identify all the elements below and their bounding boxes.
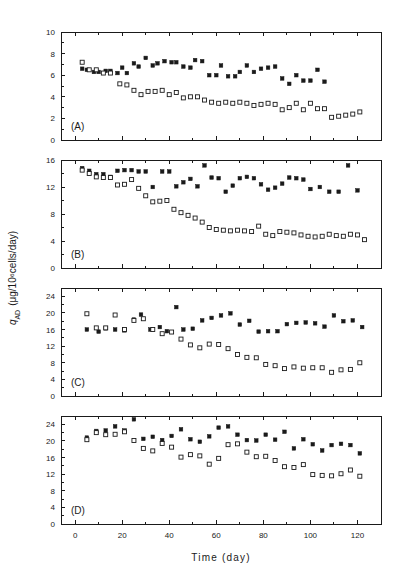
data-point xyxy=(273,186,277,190)
data-point xyxy=(132,88,136,92)
x-tick-label: 60 xyxy=(212,531,221,540)
data-point xyxy=(243,229,247,233)
data-point xyxy=(308,101,312,105)
data-point xyxy=(292,466,296,470)
data-point xyxy=(292,231,296,235)
data-point xyxy=(125,83,129,87)
x-tick-label: 80 xyxy=(259,531,268,540)
data-point xyxy=(294,73,298,77)
data-point xyxy=(137,65,141,69)
data-point xyxy=(142,437,146,441)
y-tick-label: 8 xyxy=(51,359,56,368)
data-point xyxy=(348,468,352,472)
data-point xyxy=(264,232,268,236)
data-point xyxy=(94,431,98,435)
y-tick-label: 16 xyxy=(46,454,55,463)
data-point xyxy=(198,346,202,350)
data-point xyxy=(235,228,239,232)
data-point xyxy=(285,322,289,326)
data-point xyxy=(287,176,291,180)
data-point xyxy=(363,238,367,242)
data-point xyxy=(188,95,192,99)
data-point xyxy=(217,426,221,430)
data-point xyxy=(85,328,89,332)
data-point xyxy=(235,442,239,446)
data-point xyxy=(358,361,362,365)
data-point xyxy=(360,325,364,329)
data-point xyxy=(214,73,218,77)
data-point xyxy=(113,425,117,429)
data-point xyxy=(313,235,317,239)
data-point xyxy=(189,177,193,181)
y-tick-label: 12 xyxy=(46,342,55,351)
data-point xyxy=(231,184,235,188)
data-point xyxy=(85,312,89,316)
figure-background xyxy=(0,0,399,580)
data-point xyxy=(118,82,122,86)
data-point xyxy=(323,107,327,111)
data-point xyxy=(101,71,105,75)
data-point xyxy=(186,213,190,217)
data-point xyxy=(132,439,136,443)
data-point xyxy=(348,367,352,371)
data-point xyxy=(226,74,230,78)
data-point xyxy=(141,446,145,450)
data-point xyxy=(283,367,287,371)
data-point xyxy=(302,79,306,83)
data-point xyxy=(233,74,237,78)
data-point xyxy=(165,329,169,333)
data-point xyxy=(108,71,112,75)
data-point xyxy=(330,474,334,478)
panel-label: (D) xyxy=(71,505,85,516)
data-point xyxy=(219,314,223,318)
data-point xyxy=(182,180,186,184)
data-point xyxy=(113,432,117,436)
data-point xyxy=(179,427,183,431)
data-point xyxy=(294,101,298,105)
data-point xyxy=(158,325,162,329)
data-point xyxy=(302,178,306,182)
data-point xyxy=(181,96,185,100)
data-point xyxy=(283,465,287,469)
data-point xyxy=(259,102,263,106)
data-point xyxy=(210,316,214,320)
data-point xyxy=(235,352,239,356)
y-tick-label: 6 xyxy=(51,71,56,80)
data-point xyxy=(210,100,214,104)
data-point xyxy=(245,175,249,179)
data-point xyxy=(174,90,178,94)
data-point xyxy=(327,190,331,194)
data-point xyxy=(320,234,324,238)
data-point xyxy=(151,328,155,332)
data-point xyxy=(207,462,211,466)
data-point xyxy=(207,342,211,346)
data-point xyxy=(203,98,207,102)
data-point xyxy=(330,370,334,374)
data-point xyxy=(342,319,346,323)
panel-label: (B) xyxy=(71,249,84,260)
data-point xyxy=(245,101,249,105)
data-point xyxy=(231,101,235,105)
data-point xyxy=(144,194,148,198)
data-point xyxy=(264,433,268,437)
data-point xyxy=(292,365,296,369)
data-point xyxy=(200,59,204,63)
data-point xyxy=(167,170,171,174)
data-point xyxy=(207,73,211,77)
data-point xyxy=(273,438,277,442)
data-point xyxy=(191,327,195,331)
data-point xyxy=(266,329,270,333)
x-tick-label: 0 xyxy=(73,531,78,540)
data-point xyxy=(351,112,355,116)
data-point xyxy=(266,66,270,70)
data-point xyxy=(358,452,362,456)
data-point xyxy=(285,230,289,234)
y-tick-label: 16 xyxy=(46,326,55,335)
data-point xyxy=(266,188,270,192)
data-point xyxy=(123,168,127,172)
data-point xyxy=(238,70,242,74)
x-tick-label: 40 xyxy=(165,531,174,540)
data-point xyxy=(245,64,249,68)
data-point xyxy=(170,60,174,64)
y-tick-label: 20 xyxy=(46,437,55,446)
